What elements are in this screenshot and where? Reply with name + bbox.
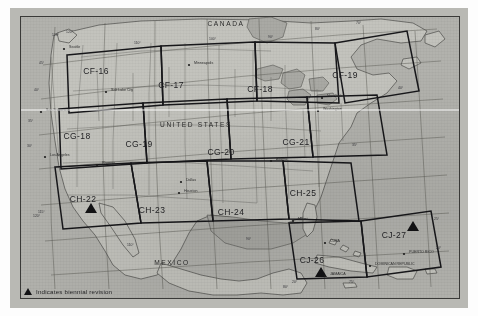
city-dot-atlanta <box>270 160 272 162</box>
cell-label-CH-24: CH-24 <box>218 207 245 217</box>
legend-text: Indicates biennial revision <box>36 288 112 295</box>
graticule-label-3: 100° <box>209 37 217 41</box>
graticule-label-8: 40° <box>34 88 40 92</box>
graticule-label-14: 115° <box>38 210 45 214</box>
city-label-washington: Washington <box>323 107 342 111</box>
city-dot-dominican-republic <box>369 265 371 267</box>
country-label-canada: CANADA <box>207 20 244 27</box>
cell-label-CF-16: CF-16 <box>83 66 109 76</box>
cell-label-CH-22: CH-22 <box>70 194 97 204</box>
graticule-label-6: 70° <box>356 21 362 25</box>
city-label-jamaica: JAMAICA <box>330 272 346 276</box>
city-dot-seattle <box>63 48 65 50</box>
triangle-icon <box>24 288 32 295</box>
city-label-seattle: Seattle <box>69 45 80 49</box>
graticule-label-20: 75° <box>349 280 355 284</box>
city-dot-washington <box>317 110 319 112</box>
graticule-label-1: 120° <box>66 30 74 34</box>
graticule-label-5: 80° <box>315 27 321 31</box>
cell-label-CG-20: CG-20 <box>207 147 234 157</box>
graticule-label-16: 90° <box>246 237 252 241</box>
graticule-label-21: 20° <box>292 280 298 284</box>
cell-label-CH-23: CH-23 <box>139 205 166 215</box>
city-dot-dallas <box>180 181 182 183</box>
city-label-minneapolis: Minneapolis <box>194 61 213 65</box>
city-dot-miami <box>292 220 294 222</box>
cell-label-CJ-27: CJ-27 <box>382 230 407 240</box>
city-dot-cuba <box>324 242 326 244</box>
country-label-united-states: UNITED STATES <box>160 121 232 128</box>
city-label-miami: Miami <box>298 217 308 221</box>
city-label-san-francisco: San Francisco <box>46 108 69 112</box>
city-dot-minneapolis <box>188 64 190 66</box>
legend: Indicates biennial revision <box>24 288 112 295</box>
city-label-cuba: CUBA <box>330 239 341 243</box>
city-dot-san-francisco <box>40 111 42 113</box>
city-label-new-york: New York <box>327 94 342 98</box>
graticule-label-7: 45° <box>39 61 45 65</box>
city-label-atlanta: Atlanta <box>276 157 287 161</box>
graticule-label-12: 30° <box>27 144 33 148</box>
screenshot-root: CF-16CF-17CF-18CF-19CG-18CG-19CG-20CG-21… <box>0 0 478 316</box>
cell-label-CG-21: CG-21 <box>282 137 309 147</box>
city-dot-salt-lake-city <box>105 91 107 93</box>
graticule-label-17: 25° <box>434 217 440 221</box>
map-graphic: CF-16CF-17CF-18CF-19CG-18CG-19CG-20CG-21… <box>21 17 459 298</box>
cell-label-CF-17: CF-17 <box>158 80 184 90</box>
city-label-houston: Houston <box>184 189 197 193</box>
city-label-los-angeles: Los Angeles <box>50 153 70 157</box>
graticule-label-4: 90° <box>268 35 274 39</box>
city-label-phoenix: Phoenix <box>102 161 115 165</box>
graticule-label-2: 110° <box>134 41 141 45</box>
city-label-salt-lake-city: Salt Lake City <box>111 88 133 92</box>
graticule-label-11: 35° <box>352 143 358 147</box>
map-plate: CF-16CF-17CF-18CF-19CG-18CG-19CG-20CG-21… <box>20 16 460 299</box>
cell-label-CG-19: CG-19 <box>125 139 152 149</box>
city-dot-los-angeles <box>44 156 46 158</box>
cell-label-CG-18: CG-18 <box>63 131 90 141</box>
country-label-mexico: MEXICO <box>154 259 190 266</box>
city-dot-puerto-rico <box>403 253 405 255</box>
city-dot-jamaica <box>324 275 326 277</box>
city-label-dominican-republic: DOMINICAN REPUBLIC <box>375 262 415 266</box>
cell-label-CH-25: CH-25 <box>290 188 317 198</box>
city-label-dallas: Dallas <box>186 178 196 182</box>
cell-label-CJ-26: CJ-26 <box>300 255 325 265</box>
graticule-label-10: 35° <box>28 119 34 123</box>
graticule-label-0: 125° <box>52 33 60 37</box>
city-dot-phoenix <box>96 164 98 166</box>
graticule-label-18: 20° <box>436 246 442 250</box>
city-label-puerto-rico: PUERTO RICO <box>409 250 434 254</box>
graticule-label-15: 110° <box>127 243 134 247</box>
graticule-label-9: 40° <box>398 86 404 90</box>
graticule-label-13: 120° <box>33 214 41 218</box>
cell-label-CF-19: CF-19 <box>332 70 358 80</box>
graticule-label-19: 80° <box>283 285 289 289</box>
cell-label-CF-18: CF-18 <box>247 84 273 94</box>
city-dot-houston <box>178 192 180 194</box>
city-dot-new-york <box>321 97 323 99</box>
